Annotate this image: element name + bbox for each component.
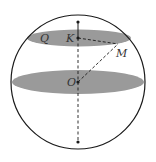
point-o	[76, 80, 79, 83]
point-k	[76, 36, 79, 39]
label-o: O	[67, 76, 76, 89]
point-bottom-pole	[76, 140, 79, 143]
label-q: Q	[40, 32, 49, 45]
point-top-pole	[76, 20, 79, 23]
label-k: K	[65, 32, 75, 45]
sphere-diagram-svg: Q K M O	[0, 0, 156, 162]
sphere-diagram: Q K M O	[0, 0, 156, 162]
label-m: M	[115, 47, 128, 60]
